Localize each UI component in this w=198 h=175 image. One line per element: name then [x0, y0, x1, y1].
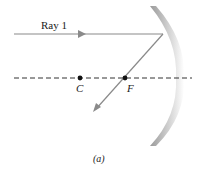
point-c — [78, 76, 83, 81]
incident-ray-arrowhead-icon — [78, 30, 86, 38]
reflected-ray — [96, 34, 163, 109]
point-f-label: F — [126, 82, 134, 94]
point-c-label: C — [76, 82, 84, 94]
concave-mirror-diagram: Ray 1 C F (a) — [0, 0, 198, 175]
figure-caption: (a) — [93, 153, 105, 165]
concave-mirror — [150, 6, 184, 146]
ray-label: Ray 1 — [41, 19, 67, 31]
point-f — [123, 76, 128, 81]
